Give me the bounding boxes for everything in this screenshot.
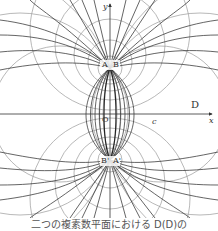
black-flow-lines — [0, 0, 218, 218]
pole-label-b-prime: B' — [101, 157, 109, 165]
grey-circle-family — [0, 0, 218, 218]
x-axis-label: x — [209, 117, 214, 125]
axes — [0, 4, 212, 218]
origin-label: O — [102, 116, 109, 124]
pole-label-a-prime: A' — [113, 157, 121, 165]
pole-label-b: B — [113, 61, 119, 69]
point-c-label: c — [152, 118, 156, 126]
pole-label-a: A — [102, 61, 108, 69]
conformal-map-diagram — [0, 0, 218, 218]
region-label: D — [191, 100, 199, 110]
figure-caption: 二つの複素数平面における D(D)の — [0, 219, 218, 231]
y-axis-label: y — [103, 3, 108, 11]
